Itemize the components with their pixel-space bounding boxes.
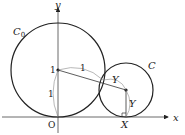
c0-label: C0 bbox=[13, 26, 25, 39]
c-label: C bbox=[148, 60, 156, 71]
foot-x-label: X bbox=[120, 119, 129, 130]
vertical-radius-label: Y bbox=[129, 98, 137, 109]
tangent-circles-diagram: y x O C0 C 1 1 Y Y 1 X bbox=[0, 0, 185, 135]
x-axis-label: x bbox=[173, 112, 179, 123]
arc-origin-label: 1 bbox=[48, 89, 54, 99]
y-axis-label: y bbox=[54, 0, 61, 10]
origin-label: O bbox=[48, 120, 55, 130]
arc-origin-to-center bbox=[53, 70, 58, 117]
radius-small-line-label: Y bbox=[112, 74, 120, 85]
center-y-label: 1 bbox=[50, 65, 56, 75]
radius-big-label: 1 bbox=[80, 63, 86, 73]
